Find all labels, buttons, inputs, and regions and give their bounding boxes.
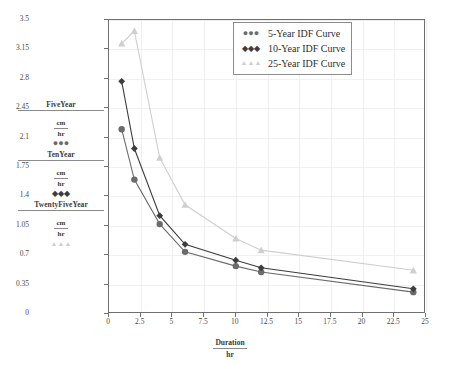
left-legend-item-ten-year: TenYear cm hr ◆◆◆ bbox=[18, 150, 104, 198]
left-legend: FiveYear cm hr ●●● TenYear cm hr ◆◆◆ Twe… bbox=[18, 100, 104, 250]
legend-row-five-year: ●●● 5-Year IDF Curve bbox=[238, 26, 345, 41]
y-axis-tick-label: 0.7 bbox=[0, 250, 29, 258]
y-axis-tick-label: 0.35 bbox=[0, 280, 29, 288]
x-axis-tick-label: 25 bbox=[410, 318, 440, 326]
left-legend-unit-numerator-twenty-five-year: cm bbox=[54, 218, 69, 229]
x-axis-tick-label: 12.5 bbox=[252, 318, 282, 326]
chart-root: FiveYear cm hr ●●● TenYear cm hr ◆◆◆ Twe… bbox=[0, 0, 460, 365]
data-point-triangle bbox=[156, 154, 163, 161]
left-legend-item-five-year: FiveYear cm hr ●●● bbox=[18, 100, 104, 148]
left-legend-title-twenty-five-year: TwentyFiveYear bbox=[18, 200, 104, 211]
circle-marker-icon: ●●● bbox=[53, 139, 69, 147]
data-point-triangle bbox=[232, 235, 239, 242]
data-point-triangle bbox=[181, 201, 188, 208]
series-line bbox=[122, 81, 414, 288]
x-axis-tick-label: 10 bbox=[220, 318, 250, 326]
y-axis-tick-label: 3.5 bbox=[0, 15, 29, 23]
data-point-circle bbox=[157, 221, 163, 227]
left-legend-item-twenty-five-year: TwentyFiveYear cm hr ▲▲▲ bbox=[18, 200, 104, 248]
legend-label-twenty-five-year: 25-Year IDF Curve bbox=[268, 58, 345, 69]
x-axis-tick-label: 17.5 bbox=[315, 318, 345, 326]
legend-circle-marker-icon: ●●● bbox=[238, 29, 264, 38]
left-legend-unit-denominator-twenty-five-year: hr bbox=[18, 229, 104, 239]
y-axis-tick-label: 1.4 bbox=[0, 191, 29, 199]
legend-triangle-marker-icon: ▲▲▲ bbox=[238, 59, 264, 68]
data-point-circle bbox=[182, 249, 188, 255]
x-axis-tick-label: 15 bbox=[283, 318, 313, 326]
y-axis-tick-label: 1.75 bbox=[0, 162, 29, 170]
y-axis-tick-label: 3.15 bbox=[0, 44, 29, 52]
y-axis-tick-label: 2.45 bbox=[0, 103, 29, 111]
y-axis-tick-label: 1.05 bbox=[0, 221, 29, 229]
x-axis-tick-label: 5 bbox=[156, 318, 186, 326]
series-10-year-idf-curve bbox=[118, 78, 416, 292]
x-axis-tick-label: 0 bbox=[93, 318, 123, 326]
data-point-circle bbox=[131, 176, 137, 182]
x-axis-tick-label: 20 bbox=[347, 318, 377, 326]
legend-row-ten-year: ◆◆◆ 10-Year IDF Curve bbox=[238, 41, 345, 56]
x-axis-tick-label: 7.5 bbox=[188, 318, 218, 326]
left-legend-title-five-year: FiveYear bbox=[18, 100, 104, 111]
x-axis-title-unit: hr bbox=[0, 349, 460, 360]
data-point-diamond bbox=[232, 257, 239, 264]
y-axis-tick-label: 2.1 bbox=[0, 133, 29, 141]
data-point-circle bbox=[233, 263, 239, 269]
x-axis-title-text: Duration bbox=[213, 338, 246, 349]
legend-label-five-year: 5-Year IDF Curve bbox=[268, 28, 340, 39]
series-line bbox=[122, 129, 414, 292]
x-axis-tick-label: 2.5 bbox=[125, 318, 155, 326]
legend-row-twenty-five-year: ▲▲▲ 25-Year IDF Curve bbox=[238, 56, 345, 71]
data-point-diamond bbox=[131, 145, 138, 152]
data-point-triangle bbox=[131, 27, 138, 34]
left-legend-marker-twenty-five-year: ▲▲▲ bbox=[18, 239, 104, 248]
left-legend-unit-denominator-ten-year: hr bbox=[18, 179, 104, 189]
left-legend-unit-numerator-ten-year: cm bbox=[54, 168, 69, 179]
left-legend-unit-numerator-five-year: cm bbox=[54, 118, 69, 129]
legend-box: ●●● 5-Year IDF Curve ◆◆◆ 10-Year IDF Cur… bbox=[233, 22, 352, 75]
left-legend-title-ten-year: TenYear bbox=[18, 150, 104, 161]
diamond-marker-icon: ◆◆◆ bbox=[52, 190, 70, 198]
data-point-diamond bbox=[118, 78, 125, 85]
data-point-circle bbox=[118, 126, 124, 132]
legend-diamond-marker-icon: ◆◆◆ bbox=[238, 44, 264, 53]
series-5-year-idf-curve bbox=[118, 126, 416, 295]
x-axis-tick-label: 22.5 bbox=[378, 318, 408, 326]
triangle-marker-icon: ▲▲▲ bbox=[51, 240, 72, 248]
y-axis-tick-label: 2.8 bbox=[0, 74, 29, 82]
y-axis-tick-label: 0 bbox=[0, 309, 29, 317]
x-axis-title: Duration hr bbox=[0, 331, 460, 360]
gridline-vertical bbox=[426, 20, 427, 312]
left-legend-marker-ten-year: ◆◆◆ bbox=[18, 189, 104, 198]
data-point-triangle bbox=[258, 247, 265, 254]
left-legend-marker-five-year: ●●● bbox=[18, 139, 104, 148]
legend-label-ten-year: 10-Year IDF Curve bbox=[268, 43, 345, 54]
